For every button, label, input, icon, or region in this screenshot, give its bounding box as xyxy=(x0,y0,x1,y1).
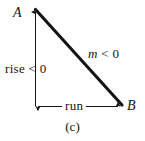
point-a-label: A xyxy=(13,6,22,20)
run-label: run xyxy=(62,99,86,112)
rise-label: rise < 0 xyxy=(5,62,47,75)
slope-figure: A B rise < 0 m < 0 run (c) xyxy=(0,0,145,141)
slope-variable: m xyxy=(88,46,98,61)
slope-relation: < 0 xyxy=(101,46,119,61)
point-b-label: B xyxy=(127,99,136,113)
slope-label: m < 0 xyxy=(88,47,119,60)
figure-caption: (c) xyxy=(0,120,145,133)
